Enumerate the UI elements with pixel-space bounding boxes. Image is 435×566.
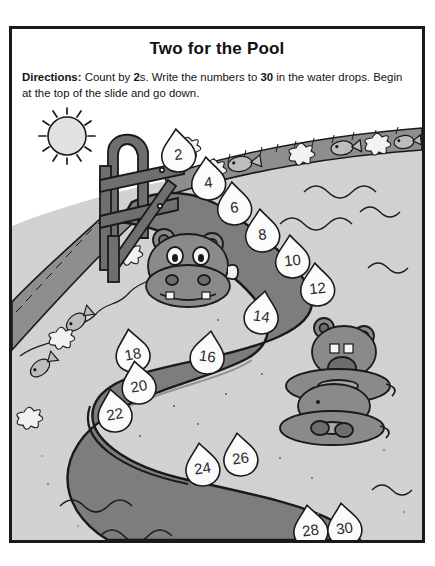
water-drop-number: 22 [105, 404, 124, 424]
directions-bold-target: 30 [260, 71, 273, 83]
water-drop-number: 4 [203, 173, 213, 191]
directions-part2: s. Write the numbers to [140, 71, 261, 83]
water-drop-number: 16 [198, 346, 217, 365]
water-drop-number: 14 [252, 306, 271, 325]
water-drop-number: 26 [231, 448, 250, 467]
directions-part1: Count by [82, 71, 134, 83]
worksheet-page: Two for the Pool Directions: Count by 2s… [9, 26, 425, 543]
water-drop-number: 28 [301, 520, 320, 539]
water-drop-number: 20 [129, 376, 148, 396]
directions-label: Directions: [22, 71, 82, 83]
page-title: Two for the Pool [12, 39, 422, 59]
water-drop-number: 6 [229, 198, 239, 216]
water-drop-number: 8 [257, 225, 267, 243]
illustration-area: 24681012141618202224262830 [12, 106, 422, 540]
water-drop-number: 30 [335, 518, 354, 537]
pool-slide-illustration: 24681012141618202224262830 [12, 106, 422, 540]
directions-text: Directions: Count by 2s. Write the numbe… [22, 69, 412, 101]
water-drop-number: 10 [283, 251, 301, 270]
water-drop-number: 18 [123, 344, 142, 364]
water-drop-number: 24 [193, 458, 212, 477]
water-drop-number: 12 [308, 279, 326, 298]
water-drop-number: 2 [173, 145, 183, 163]
